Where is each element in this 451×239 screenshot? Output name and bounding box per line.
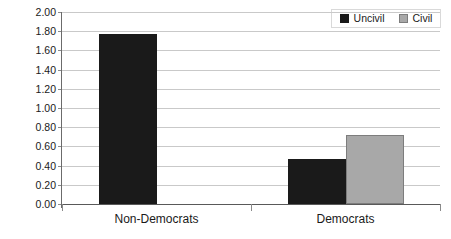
y-axis-tick-label: 2.00 <box>0 7 56 18</box>
bar-democrats-civil[interactable] <box>346 135 404 204</box>
plot-area <box>62 12 440 204</box>
x-axis-tick-mark <box>440 204 441 211</box>
bar-chart: Uncivil Civil 0.000.200.400.600.801.001.… <box>0 0 451 239</box>
gridline <box>62 12 440 13</box>
y-axis-tick-label: 1.40 <box>0 64 56 75</box>
y-axis-tick-label: 0.20 <box>0 180 56 191</box>
y-axis-tick-label: 0.80 <box>0 122 56 133</box>
y-axis-tick-label: 1.60 <box>0 45 56 56</box>
y-axis-labels: 0.000.200.400.600.801.001.201.401.601.80… <box>0 0 56 239</box>
y-axis-tick-label: 1.80 <box>0 26 56 37</box>
y-axis-tick-label: 0.40 <box>0 160 56 171</box>
y-axis-tick-label: 0.00 <box>0 199 56 210</box>
x-axis-tick-mark <box>251 204 252 211</box>
y-axis-tick-label: 1.00 <box>0 103 56 114</box>
y-axis-tick-label: 1.20 <box>0 84 56 95</box>
x-axis-tick-mark <box>62 204 63 211</box>
bar-democrats-uncivil[interactable] <box>288 159 346 204</box>
gridline <box>62 31 440 32</box>
x-axis-category-label: Non-Democrats <box>114 212 198 226</box>
y-axis-tick-label: 0.60 <box>0 141 56 152</box>
x-axis-category-label: Democrats <box>316 212 374 226</box>
bar-non-democrats-uncivil[interactable] <box>99 34 157 204</box>
